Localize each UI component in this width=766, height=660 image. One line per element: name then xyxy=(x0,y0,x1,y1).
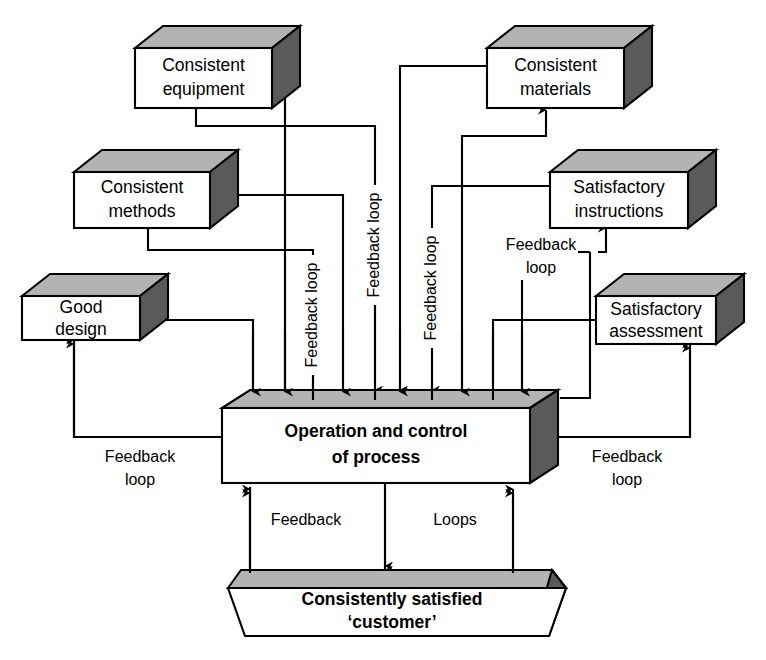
edge-label-feedback-loop-2: Feedback loop xyxy=(365,185,385,305)
cube-face xyxy=(222,408,530,483)
prism-top xyxy=(228,570,566,588)
cube-top xyxy=(222,390,558,408)
node-consistent-materials[interactable]: Consistent materials xyxy=(487,26,652,108)
edge-process-to-assessment-right xyxy=(558,344,690,437)
edge-instructions-feedback-down xyxy=(432,186,551,390)
edge-materials-feedback-down xyxy=(400,66,488,390)
edge-process-to-gooddesign-left xyxy=(74,340,222,437)
edge-label-feedback-loop-left-lower: Feedback loop xyxy=(86,444,194,492)
edge-label-text: Feedback xyxy=(271,511,342,528)
node-label-line1: Consistent xyxy=(162,55,245,75)
process-feedback-diagram: Consistent equipment Consistent material… xyxy=(0,0,766,660)
edge-label-feedback-loop-right-lower: Feedback loop xyxy=(572,444,682,492)
node-label-line2: assessment xyxy=(609,321,703,341)
edge-label-text: Feedback loop xyxy=(303,262,320,367)
node-consistent-methods[interactable]: Consistent methods xyxy=(74,150,238,228)
edge-design-to-process xyxy=(140,320,253,390)
edge-label-feedback-bottom: Feedback xyxy=(258,508,354,534)
node-label-line2: methods xyxy=(108,201,175,221)
edge-label-text: Feedback loop xyxy=(422,235,439,340)
node-satisfactory-assessment[interactable]: Satisfactory assessment xyxy=(596,274,744,344)
edge-assessment-feedback-down xyxy=(493,320,597,390)
edge-label-feedback-loop-1: Feedback loop xyxy=(303,255,323,375)
node-consistent-equipment[interactable]: Consistent equipment xyxy=(135,26,300,108)
top-stems xyxy=(253,305,522,400)
node-label-line2: of process xyxy=(332,447,421,467)
node-label-line1: Satisfactory xyxy=(573,177,665,197)
node-label-line2: design xyxy=(55,319,107,339)
node-label-line1: Consistent xyxy=(101,177,184,197)
diagram-canvas: Consistent equipment Consistent material… xyxy=(0,0,766,660)
edge-label-line1: Feedback xyxy=(506,236,577,253)
edge-label-line2: loop xyxy=(125,471,155,488)
node-label-line2: ‘customer’ xyxy=(347,612,436,632)
edge-label-line2: loop xyxy=(612,471,642,488)
edge-label-line1: Feedback xyxy=(105,448,176,465)
edge-label-feedback-loop-3: Feedback loop xyxy=(422,228,442,348)
node-label-line2: equipment xyxy=(163,79,245,99)
edge-label-text: Feedback loop xyxy=(365,192,382,297)
edge-label-line1: Feedback xyxy=(592,448,663,465)
node-consistently-satisfied-customer[interactable]: Consistently satisfied ‘customer’ xyxy=(228,570,566,636)
edge-label-feedback-loop-right-upper: Feedback loop xyxy=(490,234,598,280)
node-label-line1: Good xyxy=(60,297,103,317)
node-satisfactory-instructions[interactable]: Satisfactory instructions xyxy=(550,150,716,228)
edge-methods-to-process xyxy=(148,226,313,390)
node-label-line1: Consistent xyxy=(514,55,597,75)
node-label-line2: materials xyxy=(520,79,591,99)
node-label-line1: Satisfactory xyxy=(610,299,702,319)
node-operation-control[interactable]: Operation and control of process xyxy=(222,390,558,483)
node-good-design[interactable]: Good design xyxy=(22,274,168,340)
edge-label-loops-bottom: Loops xyxy=(420,508,490,534)
edge-label-text: Loops xyxy=(433,511,477,528)
node-label-line1: Consistently satisfied xyxy=(302,589,483,609)
node-label-line2: instructions xyxy=(575,201,664,221)
edge-label-line2: loop xyxy=(526,259,556,276)
node-label-line1: Operation and control xyxy=(285,421,468,441)
